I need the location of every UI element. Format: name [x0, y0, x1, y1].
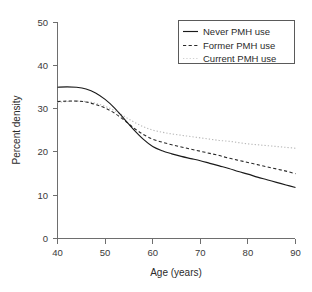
legend-label-former-pmh-use: Former PMH use — [203, 40, 275, 51]
chart-canvas: 50 40 30 20 10 0 40 50 60 70 80 90 Age (… — [0, 0, 312, 292]
y-tick-label-0: 0 — [43, 233, 48, 244]
legend-label-never-pmh-use: Never PMH use — [203, 26, 270, 37]
x-tick-label-90: 90 — [290, 247, 301, 258]
x-tick-label-40: 40 — [52, 247, 63, 258]
y-tick-label-50: 50 — [37, 17, 48, 28]
series-line-current-pmh-use — [58, 101, 296, 148]
x-axis-title: Age (years) — [150, 267, 202, 278]
y-tick-label-10: 10 — [37, 190, 48, 201]
series-line-never-pmh-use — [58, 87, 296, 188]
series-line-former-pmh-use — [58, 101, 296, 174]
legend: Never PMH use Former PMH use Current PMH… — [179, 21, 295, 65]
y-tick-label-20: 20 — [37, 146, 48, 157]
legend-label-current-pmh-use: Current PMH use — [203, 53, 276, 64]
x-tick-label-60: 60 — [147, 247, 158, 258]
x-tick-label-80: 80 — [243, 247, 254, 258]
y-axis-ticks — [53, 23, 58, 239]
y-tick-label-40: 40 — [37, 60, 48, 71]
x-axis-tick-labels: 40 50 60 70 80 90 — [52, 247, 301, 258]
x-tick-label-70: 70 — [195, 247, 206, 258]
density-by-age-figure: 50 40 30 20 10 0 40 50 60 70 80 90 Age (… — [0, 0, 312, 292]
y-tick-label-30: 30 — [37, 103, 48, 114]
x-axis-ticks — [58, 239, 296, 244]
y-axis-tick-labels: 50 40 30 20 10 0 — [37, 17, 48, 244]
series-group — [58, 87, 296, 188]
x-tick-label-50: 50 — [100, 247, 111, 258]
y-axis-title: Percent density — [11, 96, 22, 165]
